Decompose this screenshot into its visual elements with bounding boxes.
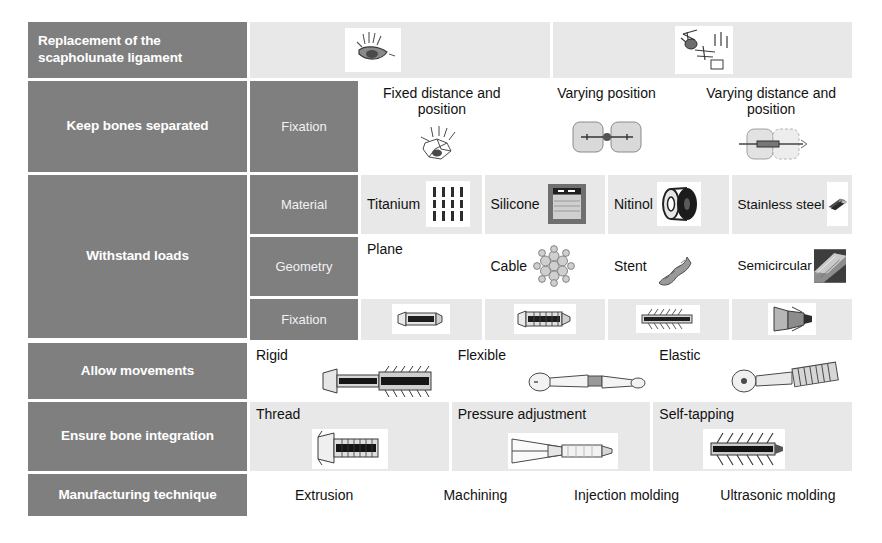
function-label-withstand-loads: Withstand loads [28,175,247,338]
nitinol-wire-spool-photo-icon [657,182,701,226]
option-label: Titanium [361,196,422,213]
titanium-pins-photo-icon [426,181,470,227]
option-cell-stent[interactable]: Stent [608,237,729,296]
flexible-dumbbell-implant-icon [528,369,648,395]
matrix-row-manufacturing-technique: Manufacturing technique Extrusion Machin… [28,474,852,516]
option-label: Silicone [485,196,542,213]
wrist-anatomy-sketch-icon [675,26,733,74]
option-cell-varying-distance[interactable]: Varying distance and position [690,81,852,172]
option-label: Varying distance and position [690,81,852,119]
option-label: Thread [250,402,449,423]
option-label: Stainless steel [732,197,827,213]
option-cell-injection-molding[interactable]: Injection molding [553,474,701,516]
option-cell-varying-position[interactable]: Varying position [526,81,688,172]
sub-function-label-geometry: Geometry [250,237,358,296]
option-label: Rigid [250,343,449,364]
pressure-adjust-cone-icon [508,433,618,469]
option-cell-stainless-steel[interactable]: Stainless steel [732,175,853,234]
matrix-row-replacement: Replacement of the scapholunate ligament [28,22,852,78]
option-label: Varying position [526,81,688,102]
function-label-ensure-bone-integration: Ensure bone integration [28,402,247,472]
expanding-anchor-head-icon [768,303,816,335]
option-cell-machining[interactable]: Machining [401,474,549,516]
option-cell-titanium[interactable]: Titanium [361,175,482,234]
option-cell-elastic[interactable]: Elastic [653,343,852,399]
ribbed-anchor-screw-icon [514,304,576,334]
option-label: Stent [608,258,649,275]
smooth-anchor-screw-icon [392,304,450,334]
semicircular-profile-photo-icon [814,241,846,291]
option-cell-extrusion[interactable]: Extrusion [250,474,398,516]
option-label: Pressure adjustment [452,402,651,423]
stainless-steel-tubes-photo-icon [827,182,848,226]
braided-cable-cross-section-icon [533,245,575,287]
option-label: Self-tapping [653,402,852,423]
option-cell-semicircular[interactable]: Semicircular [732,237,853,296]
option-cell-smooth-anchor[interactable] [361,299,482,341]
option-cell-plane[interactable]: Plane [361,237,482,296]
option-cell-expanding-anchor[interactable] [732,299,853,341]
option-cell-flexible[interactable]: Flexible [452,343,651,399]
option-cell-thread[interactable]: Thread [250,402,449,472]
option-cell-cable[interactable]: Cable [485,237,606,296]
elastic-spring-implant-icon [730,361,850,397]
option-label: Semicircular [732,258,814,274]
option-cell-ultrasonic-molding[interactable]: Ultrasonic molding [704,474,852,516]
option-label: Cable [485,258,530,275]
option-label: Plane [361,237,482,258]
matrix-row-ensure-bone-integration: Ensure bone integration Thread [28,402,852,472]
two-bones-with-link-icon [567,118,647,156]
option-cell[interactable] [553,22,853,78]
two-bones-sliding-link-icon [731,126,811,164]
option-cell-barbed-anchor[interactable] [608,299,729,341]
option-label: Nitinol [608,196,655,213]
sub-function-label-fixation-loads: Fixation [250,299,358,341]
carpal-bones-drawing-icon [411,125,473,165]
option-label: Fixed distance and position [361,81,523,119]
stent-photo-icon [651,251,695,291]
option-cell-nitinol[interactable]: Nitinol [608,175,729,234]
option-cell-rigid[interactable]: Rigid [250,343,449,399]
option-cell-self-tapping[interactable]: Self-tapping [653,402,852,472]
option-cell-pressure-adjustment[interactable]: Pressure adjustment [452,402,651,472]
self-tapping-screw-icon [703,429,785,469]
function-label-keep-bones-separated: Keep bones separated [28,81,247,172]
function-label-manufacturing-technique: Manufacturing technique [28,474,247,516]
matrix-row-material: Withstand loads Material Titanium [28,175,852,234]
wrist-bones-ligament-diagram-icon [345,28,401,72]
sub-function-label-material: Material [250,175,358,234]
option-label: Flexible [452,343,651,364]
option-cell-silicone[interactable]: Silicone [485,175,606,234]
option-cell-fixed-distance[interactable]: Fixed distance and position [361,81,523,172]
function-label-replacement: Replacement of the scapholunate ligament [28,22,247,78]
barbed-anchor-screw-icon [636,305,700,333]
option-cell-ribbed-anchor[interactable] [485,299,606,341]
threaded-screw-head-icon [312,429,388,469]
sub-function-label-fixation: Fixation [250,81,358,172]
function-label-allow-movements: Allow movements [28,343,247,399]
rigid-screw-implant-icon [321,365,441,399]
matrix-row-keep-bones-separated: Keep bones separated Fixation Fixed dist… [28,81,852,172]
matrix-row-allow-movements: Allow movements Rigid [28,343,852,399]
option-cell[interactable] [250,22,550,78]
silicone-jar-photo-icon [548,184,586,224]
morphological-matrix: Replacement of the scapholunate ligament [28,22,852,516]
